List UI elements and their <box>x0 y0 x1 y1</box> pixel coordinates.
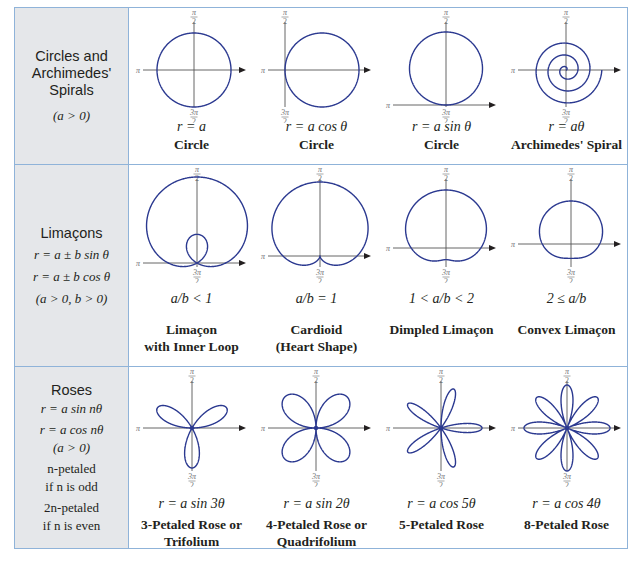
curve-name: Circle <box>254 137 379 153</box>
svg-text:2: 2 <box>190 481 194 487</box>
category-title-line: Limaçons <box>40 225 102 242</box>
curve-name: Circle <box>129 137 254 153</box>
svg-text:2: 2 <box>439 481 443 487</box>
svg-text:2: 2 <box>195 174 199 183</box>
graph-cell-8-petaled-rose: π23π2π r = a cos 4θ 8-Petaled Rose <box>504 367 629 548</box>
category-condition: n-petaled <box>47 460 95 477</box>
svg-text:2: 2 <box>444 277 448 283</box>
graph-cell-quadrifolium: π23π2π r = a sin 2θ 4-Petaled Rose or Qu… <box>254 367 379 548</box>
curve-name: 3-Petaled Rose or <box>129 517 254 533</box>
category-condition: r = a ± b sin θ <box>34 246 109 263</box>
category-condition: r = a sin nθ <box>41 400 102 417</box>
svg-text:3π: 3π <box>561 108 571 117</box>
polar-graph-8-petaled-rose-icon: π23π2π <box>504 367 629 487</box>
arrow-icon <box>614 67 621 73</box>
arrow-icon <box>239 425 246 431</box>
category-cell-roses: Roses r = a sin nθ r = a cos nθ (a > 0) … <box>15 367 129 548</box>
svg-text:π: π <box>283 8 288 17</box>
axis-label: 3π2 <box>441 268 451 283</box>
category-condition: r = a ± b cos θ <box>33 268 110 285</box>
svg-text:2: 2 <box>564 17 568 26</box>
pole-dot <box>314 426 318 430</box>
svg-text:2: 2 <box>569 277 573 283</box>
svg-text:π: π <box>439 367 444 376</box>
graph-cell-circle-sin: π23π2π r = a sin θ Circle <box>379 8 504 164</box>
polar-graphs-table: Circles and Archimedes' Spirals (a > 0) … <box>14 7 628 549</box>
category-cell-limacons: Limaçons r = a ± b sin θ r = a ± b cos θ… <box>15 165 129 366</box>
category-title-line: Circles and <box>35 48 108 65</box>
curve-name: Circle <box>379 137 504 153</box>
graph-cell-archimedes-spiral: π23π2π r = aθ Archimedes' Spiral <box>504 8 629 164</box>
axis-label: π <box>136 259 141 268</box>
equation: r = a cos θ <box>254 119 379 135</box>
axis-label: π <box>511 240 516 249</box>
svg-text:2: 2 <box>314 376 318 385</box>
equation: r = aθ <box>504 119 629 135</box>
svg-text:3π: 3π <box>562 472 572 481</box>
svg-text:π: π <box>565 367 570 376</box>
axis-label: π <box>386 101 391 110</box>
equation: r = a cos 5θ <box>379 496 504 512</box>
arrow-icon <box>614 425 621 431</box>
polar-graph-limacon-inner-loop-icon: π23π2π <box>129 165 254 283</box>
arrow-icon <box>614 241 621 247</box>
curve-name: 4-Petaled Rose or <box>254 517 379 533</box>
category-cell-circles-spirals: Circles and Archimedes' Spirals (a > 0) <box>15 8 129 164</box>
axis-label: π2 <box>568 165 575 183</box>
pole-dot <box>439 426 443 430</box>
category-condition: (a > 0) <box>53 107 90 124</box>
svg-text:2: 2 <box>439 376 443 385</box>
polar-graph-dimpled-limacon-icon: π23π2π <box>379 165 504 283</box>
curve-name: Dimpled Limaçon <box>379 322 504 338</box>
graph-cell-circle: π23π2π r = a Circle <box>129 8 254 164</box>
axis-label: π2 <box>443 165 450 183</box>
polar-graph-quadrifolium-icon: π23π2π <box>254 367 379 487</box>
graph-cell-circle-cos: π23π2π r = a cos θ Circle <box>254 8 379 164</box>
axis-label: π2 <box>564 367 571 385</box>
axis-label: 3π2 <box>311 472 321 487</box>
svg-text:π: π <box>444 8 449 17</box>
svg-text:π: π <box>195 165 200 174</box>
svg-text:3π: 3π <box>192 268 202 277</box>
polar-graph-spiral-icon: π23π2π <box>504 8 629 123</box>
curve-name: Convex Limaçon <box>504 322 629 338</box>
equation: r = a sin 3θ <box>129 496 254 512</box>
curve-name: (Heart Shape) <box>254 339 379 355</box>
svg-text:3π: 3π <box>187 472 197 481</box>
svg-text:π: π <box>318 165 323 174</box>
equation: r = a cos 4θ <box>504 496 629 512</box>
axis-label: π2 <box>443 8 450 26</box>
axis-label: π <box>386 424 391 433</box>
equation: r = a <box>129 119 254 135</box>
svg-text:2: 2 <box>318 277 322 283</box>
svg-text:π: π <box>444 165 449 174</box>
polar-graph-circle-icon: π23π2π <box>129 8 254 123</box>
category-title-line: Archimedes' <box>32 65 111 82</box>
axis-label: π2 <box>313 367 320 385</box>
axis-label: π <box>511 66 516 75</box>
arrow-icon <box>364 253 371 259</box>
curve-name: Trifolium <box>129 534 254 550</box>
svg-text:π: π <box>569 165 574 174</box>
arrow-icon <box>239 67 246 73</box>
axis-label: 3π2 <box>436 472 446 487</box>
axis-label: 3π2 <box>187 472 197 487</box>
polar-graph-circle-sin-icon: π23π2π <box>379 8 504 123</box>
svg-text:2: 2 <box>283 17 287 26</box>
graph-cell-cardioid: π23π2π a/b = 1 Cardioid (Heart Shape) <box>254 165 379 366</box>
svg-text:3π: 3π <box>280 108 290 117</box>
pole-dot <box>190 426 194 430</box>
equation: r = a sin 2θ <box>254 496 379 512</box>
svg-text:2: 2 <box>195 277 199 283</box>
ratio-condition: 1 < a/b < 2 <box>379 291 504 307</box>
svg-text:π: π <box>564 8 569 17</box>
svg-text:3π: 3π <box>566 268 576 277</box>
svg-text:2: 2 <box>565 376 569 385</box>
svg-text:3π: 3π <box>441 268 451 277</box>
axis-label: π2 <box>191 8 198 26</box>
arrow-icon <box>364 425 371 431</box>
axis-label: π <box>136 424 141 433</box>
arrow-icon <box>489 425 496 431</box>
axis-label: π <box>386 244 391 253</box>
category-title-line: Roses <box>51 382 92 399</box>
